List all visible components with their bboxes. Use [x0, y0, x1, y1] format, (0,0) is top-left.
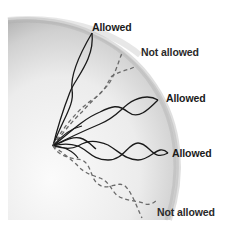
- label-allowed-middle: Allowed: [166, 92, 206, 104]
- label-allowed-horizontal: Allowed: [172, 147, 212, 159]
- label-not-allowed-lower: Not allowed: [157, 206, 215, 218]
- label-not-allowed-upper: Not allowed: [141, 46, 199, 58]
- label-allowed-top: Allowed: [92, 21, 132, 33]
- diagram-canvas: [0, 0, 231, 231]
- wave-diagram: Allowed Not allowed Allowed Allowed Not …: [0, 0, 231, 231]
